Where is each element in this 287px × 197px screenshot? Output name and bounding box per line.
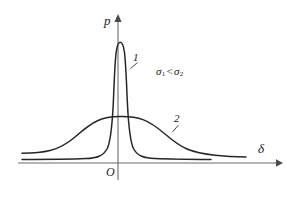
figure-canvas [0, 0, 287, 197]
distribution-curve-1 [22, 42, 211, 159]
x-axis-label: δ [258, 142, 264, 155]
sigma-1-symbol: σ [156, 65, 162, 77]
normal-distribution-figure: p δ O 1 2 σ1<σ2 [0, 0, 287, 197]
curve-2-label: 2 [174, 113, 180, 124]
curve-1-label: 1 [133, 52, 139, 63]
distribution-curve-2 [22, 117, 246, 157]
x-axis-arrowhead [276, 159, 283, 166]
curve-2-leader-line [173, 125, 179, 132]
sigma-2-subscript: 2 [180, 70, 184, 78]
y-axis-label: p [104, 14, 111, 27]
sigma-1-subscript: 1 [162, 70, 166, 78]
sigma-2-symbol: σ [174, 65, 180, 77]
less-than-operator: < [166, 65, 174, 77]
origin-label: O [106, 166, 115, 178]
sigma-condition-label: σ1<σ2 [156, 66, 183, 78]
y-axis-arrowhead [114, 14, 121, 22]
curve-1-leader-line [131, 63, 138, 69]
